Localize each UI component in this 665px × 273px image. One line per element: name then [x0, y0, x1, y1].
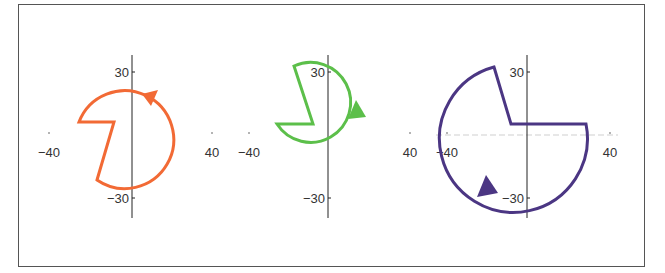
x-tick — [48, 132, 50, 134]
y-tick-label: 30 — [115, 65, 129, 80]
y-tick-label: −30 — [303, 191, 325, 206]
panel-green: 40 30 −30 −40 — [205, 55, 411, 218]
x-tick-label: −40 — [38, 145, 60, 160]
x-tick-label: 40 — [403, 145, 417, 160]
x-tick — [248, 132, 250, 134]
y-tick-label: 30 — [510, 65, 524, 80]
panel-purple: 40 30 −40 40 −30 — [403, 55, 618, 218]
orange-arrow-icon — [142, 90, 158, 106]
y-tick-label: −30 — [107, 191, 129, 206]
purple-arrow-icon — [477, 175, 498, 197]
x-tick-label: −40 — [238, 145, 260, 160]
y-tick-label: 30 — [311, 65, 325, 80]
x-tick-label: 40 — [603, 145, 617, 160]
diagram-canvas: 30 −30 −40 40 30 −30 −40 40 30 −40 40 −3… — [0, 0, 665, 273]
panel-orange: 30 −30 −40 — [38, 55, 213, 218]
x-tick — [409, 132, 411, 134]
x-tick — [446, 132, 448, 134]
y-tick-label: −30 — [502, 191, 524, 206]
x-tick — [609, 132, 611, 134]
x-tick — [211, 132, 213, 134]
orange-curve — [79, 91, 174, 189]
x-tick-label: 40 — [205, 145, 219, 160]
